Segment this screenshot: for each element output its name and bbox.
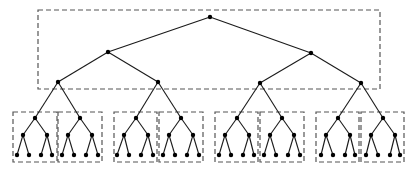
internal-node — [156, 80, 160, 84]
leaf-node — [398, 153, 402, 157]
internal-node — [122, 133, 126, 137]
tree-edge — [243, 135, 249, 155]
internal-node — [393, 133, 397, 137]
internal-node — [21, 133, 25, 137]
internal-node — [348, 133, 352, 137]
tree-edge — [219, 135, 225, 155]
root-node — [208, 15, 212, 19]
subtree-root-node — [33, 116, 37, 120]
tree-edge — [181, 118, 193, 135]
subtree-root-node — [381, 116, 385, 120]
tree-edge — [260, 83, 282, 118]
leaf-node — [331, 153, 335, 157]
subtree-root-node — [179, 116, 183, 120]
internal-node — [268, 133, 272, 137]
tree-edge — [390, 135, 395, 155]
internal-node — [56, 80, 60, 84]
tree-nodes — [15, 15, 402, 157]
leaf-node — [151, 153, 155, 157]
internal-node — [167, 133, 171, 137]
tree-edge — [282, 118, 294, 135]
tree-edge — [148, 135, 153, 155]
internal-node — [66, 133, 70, 137]
internal-node — [223, 133, 227, 137]
tree-edge — [169, 135, 175, 155]
leaf-node — [197, 153, 201, 157]
leaf-node — [139, 153, 143, 157]
tree-diagram — [0, 0, 414, 175]
leaf-node — [84, 153, 88, 157]
leaf-node — [274, 153, 278, 157]
internal-node — [146, 133, 150, 137]
tree-edge — [371, 118, 383, 135]
tree-edge — [237, 118, 249, 135]
top-block-box — [38, 10, 380, 89]
tree-edge — [136, 118, 148, 135]
subtree-root-node — [78, 116, 82, 120]
leaf-node — [298, 153, 302, 157]
tree-edge — [366, 135, 371, 155]
leaf-node — [319, 153, 323, 157]
leaf-node — [161, 153, 165, 157]
tree-edge — [17, 135, 23, 155]
tree-edge — [260, 53, 311, 83]
tree-edge — [193, 135, 199, 155]
tree-edge — [270, 135, 276, 155]
leaf-node — [72, 153, 76, 157]
tree-edge — [86, 135, 92, 155]
tree-edge — [383, 118, 395, 135]
tree-edge — [270, 118, 282, 135]
subtree-root-node — [336, 116, 340, 120]
tree-edge — [124, 135, 129, 155]
block-boxes — [13, 10, 404, 162]
tree-edge — [163, 135, 169, 155]
leaf-node — [185, 153, 189, 157]
tree-edge — [326, 135, 333, 155]
subtree-root-node — [235, 116, 239, 120]
tree-edge — [311, 53, 361, 83]
internal-node — [324, 133, 328, 137]
tree-edge — [187, 135, 193, 155]
leaf-node — [388, 153, 392, 157]
leaf-node — [50, 153, 54, 157]
leaf-node — [60, 153, 64, 157]
tree-edge — [141, 135, 148, 155]
leaf-node — [229, 153, 233, 157]
internal-node — [247, 133, 251, 137]
tree-edge — [326, 118, 338, 135]
leaf-node — [96, 153, 100, 157]
leaf-node — [353, 153, 357, 157]
tree-edge — [68, 118, 80, 135]
leaf-node — [252, 153, 256, 157]
tree-edges — [17, 17, 400, 155]
tree-edge — [264, 135, 270, 155]
internal-node — [191, 133, 195, 137]
internal-node — [90, 133, 94, 137]
leaf-node — [286, 153, 290, 157]
tree-edge — [35, 118, 47, 135]
tree-edge — [108, 17, 210, 52]
tree-edge — [108, 52, 158, 82]
tree-edge — [23, 118, 35, 135]
leaf-node — [241, 153, 245, 157]
tree-edge — [58, 52, 108, 82]
tree-edge — [169, 118, 181, 135]
leaf-node — [343, 153, 347, 157]
tree-edge — [395, 135, 400, 155]
internal-node — [45, 133, 49, 137]
tree-edge — [124, 118, 136, 135]
tree-edge — [41, 135, 47, 155]
tree-edge — [80, 118, 92, 135]
leaf-node — [27, 153, 31, 157]
tree-edge — [117, 135, 124, 155]
tree-edge — [249, 135, 254, 155]
tree-edge — [210, 17, 311, 53]
tree-edge — [92, 135, 98, 155]
internal-node — [369, 133, 373, 137]
tree-edge — [338, 83, 361, 118]
tree-edge — [23, 135, 29, 155]
tree-edge — [345, 135, 350, 155]
subtree-root-node — [134, 116, 138, 120]
leaf-node — [115, 153, 119, 157]
tree-edge — [68, 135, 74, 155]
